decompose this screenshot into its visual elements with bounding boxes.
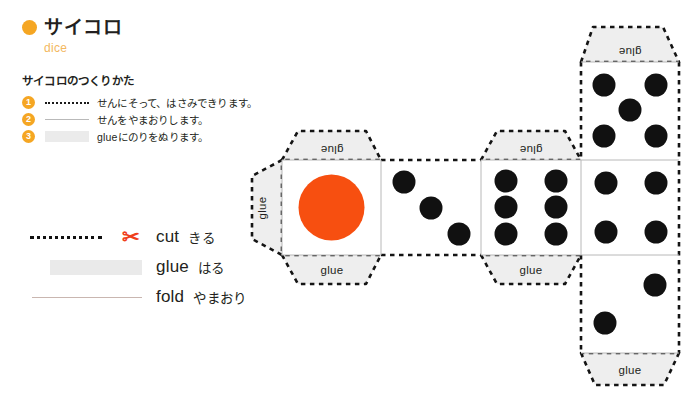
cut-outline [381, 62, 679, 353]
glue-swatch [24, 256, 144, 278]
glue-tab-face6-bottom-label: glue [520, 264, 543, 276]
glue-tab-face6-bottom-shape [481, 255, 581, 284]
solid-line-icon [32, 297, 142, 298]
instruction-step-2: 2 せんをやまおりします。 [22, 112, 282, 127]
legend-row-fold: fold やまおり [24, 282, 274, 312]
face-1-body [282, 160, 381, 255]
face-6-pip [495, 170, 518, 193]
legend-block: ✂ cut きる glue はる fold やまおり [24, 222, 274, 312]
glue-tab-face1-bottom-shape [282, 255, 381, 284]
face-2-body [581, 255, 679, 353]
face-1-pip [299, 175, 365, 241]
legend-row-cut: ✂ cut きる [24, 222, 274, 252]
instruction-text: せんをやまおりします。 [97, 112, 208, 127]
instruction-step-3: 3 glueにのりをぬります。 [22, 129, 282, 144]
legend-label-ja: きる [188, 227, 215, 247]
face-5-pip [645, 125, 668, 148]
page-subtitle: dice [44, 41, 262, 55]
cut-line-sample-icon [43, 96, 91, 109]
legend-row-glue: glue はる [24, 252, 274, 282]
pip-group [299, 74, 668, 335]
page-title: サイコロ [44, 18, 122, 37]
face-2-pip [594, 312, 617, 335]
legend-label-ja: やまおり [193, 287, 246, 307]
instructions-heading: サイコロのつくりかた [22, 72, 282, 88]
glue-tab-face5-top-label: glue [619, 46, 642, 58]
glue-tab-face1-top-shape [282, 131, 381, 160]
face-6-pip [545, 170, 568, 193]
step-number-badge: 1 [22, 96, 35, 109]
face-3-pip [393, 171, 416, 194]
face-6-pip [495, 223, 518, 246]
dotted-line-icon [30, 236, 102, 239]
fold-swatch [24, 286, 144, 308]
dice-face-group [282, 62, 679, 353]
face-3-pip [448, 223, 471, 246]
fold-line-sample-icon [43, 113, 91, 126]
face-6-pip [495, 196, 518, 219]
bullet-icon [22, 20, 37, 35]
face-2-pip [644, 274, 667, 297]
glue-tab-face2-bottom-shape [581, 353, 679, 385]
face-4-pip [595, 172, 618, 195]
step-number-badge: 3 [22, 130, 35, 143]
legend-label-ja: はる [198, 257, 225, 277]
face-4-pip [645, 172, 668, 195]
legend-label-en: glue [156, 257, 189, 277]
legend-label-en: fold [156, 287, 184, 307]
instruction-step-1: 1 せんにそって、はさみできります。 [22, 95, 282, 110]
glue-block-icon [50, 260, 142, 275]
instruction-text: せんにそって、はさみできります。 [97, 95, 257, 110]
face-4-pip [645, 221, 668, 244]
glue-block-sample-icon [43, 130, 91, 143]
cut-swatch: ✂ [24, 226, 144, 248]
fold-line-group [282, 62, 679, 353]
glue-tab-face6-top-shape [481, 131, 581, 160]
instructions-block: サイコロのつくりかた 1 せんにそって、はさみできります。 2 せんをやまおりし… [22, 72, 282, 146]
step-number-badge: 2 [22, 113, 35, 126]
glue-label-group: glue glue glue glue glue glue glue [256, 46, 641, 376]
face-6-pip [545, 196, 568, 219]
title-row: サイコロ [22, 18, 262, 37]
glue-tab-face1-top-label: glue [321, 144, 344, 156]
glue-tab-face1-bottom-label: glue [321, 264, 344, 276]
face-3-body [381, 160, 481, 255]
face-5-pip [645, 74, 668, 97]
face-6-body [481, 160, 581, 255]
page-header: サイコロ dice [22, 18, 262, 55]
face-4-body [581, 160, 679, 255]
dice-net-diagram: glue glue glue glue glue glue glue [0, 0, 697, 399]
glue-tab-group [252, 27, 679, 385]
face-5-pip [593, 74, 616, 97]
glue-tab-face2-bottom-label: glue [619, 364, 642, 376]
instruction-text: glueにのりをぬります。 [97, 129, 208, 144]
glue-tab-face5-top-shape [581, 27, 679, 62]
face-4-pip [595, 221, 618, 244]
face-3-pip [420, 197, 443, 220]
face-5-pip [593, 125, 616, 148]
glue-tab-face6-top-label: glue [520, 144, 543, 156]
face-5-pip [619, 99, 642, 122]
face-6-pip [545, 223, 568, 246]
scissors-icon: ✂ [122, 226, 140, 248]
face-5-body [581, 62, 679, 160]
glue-tab-left-label: glue [256, 197, 268, 220]
legend-label-en: cut [156, 227, 179, 247]
